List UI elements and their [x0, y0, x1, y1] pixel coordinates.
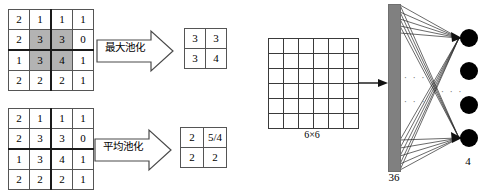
cell-r1c2: 3	[51, 30, 73, 51]
table-row	[269, 84, 359, 99]
feature-map-cell-r2c3	[314, 69, 329, 84]
feature-map-cell-r4c3	[314, 99, 329, 114]
feature-map-cell-r3c1	[284, 84, 299, 99]
input-ellipsis-2: · · ·	[404, 98, 426, 107]
feature-map-cell-r5c4	[329, 114, 344, 129]
cell-r0c2: 1	[51, 10, 73, 30]
cell-r2c3: 1	[73, 50, 94, 71]
max-pool-result-matrix: 3 3 3 4	[184, 28, 227, 69]
feature-map-cell-r1c1	[284, 54, 299, 69]
feature-map-cell-r4c4	[329, 99, 344, 114]
cell-r1c1: 3	[30, 129, 52, 150]
output-ellipsis: · · ·	[441, 88, 463, 97]
table-row: 2 1 1 1	[9, 109, 94, 129]
cell-r0c1: 1	[30, 10, 52, 30]
feature-map-cell-r1c3	[314, 54, 329, 69]
avg-pool-result-matrix: 2 5/4 2 2	[180, 127, 227, 168]
cell-r0c2: 1	[51, 109, 73, 129]
cell-r0c1: 1	[30, 109, 52, 129]
output-units-label: 4	[458, 155, 478, 167]
table-row: 1 3 4 1	[9, 149, 94, 170]
feature-map-cell-r0c4	[329, 39, 344, 54]
cell-r0c1: 5/4	[204, 128, 227, 148]
feature-map-cell-r5c3	[314, 114, 329, 129]
cell-r1c1: 2	[204, 148, 227, 168]
table-row: 2 3 3 0	[9, 30, 94, 51]
feature-map-cell-r2c4	[329, 69, 344, 84]
cell-r3c2: 2	[51, 71, 73, 91]
cell-r1c1: 4	[206, 49, 227, 69]
cell-r3c0: 2	[9, 170, 30, 190]
cell-r3c0: 2	[9, 71, 30, 91]
input-units-label: 36	[382, 171, 406, 183]
feature-map-cell-r3c4	[329, 84, 344, 99]
feature-map-cell-r0c1	[284, 39, 299, 54]
cell-r1c0: 2	[9, 129, 30, 150]
feature-map-cell-r2c0	[269, 69, 284, 84]
table-row	[269, 54, 359, 69]
cell-r3c1: 2	[30, 170, 52, 190]
cell-r0c0: 3	[185, 29, 206, 49]
feature-map-cell-r0c5	[344, 39, 359, 54]
cell-r2c0: 1	[9, 50, 30, 71]
feature-map-cell-r5c5	[344, 114, 359, 129]
cell-r1c1: 3	[30, 30, 52, 51]
avg-pool-arrow-label: 平均池化	[96, 141, 150, 153]
table-row	[269, 99, 359, 114]
max-pool-arrow: 最大池化	[96, 29, 174, 73]
cell-r0c0: 2	[9, 10, 30, 30]
cell-r1c0: 2	[181, 148, 204, 168]
cell-r3c1: 2	[30, 71, 52, 91]
output-node-2	[460, 62, 478, 80]
table-row: 1 3 4 1	[9, 50, 94, 71]
output-node-1	[460, 29, 478, 47]
feature-map-cell-r0c2	[299, 39, 314, 54]
cell-r2c3: 1	[73, 149, 94, 170]
feature-map-cell-r1c2	[299, 54, 314, 69]
cell-r3c3: 1	[73, 170, 94, 190]
cell-r1c3: 0	[73, 30, 94, 51]
feature-map-label: 6×6	[268, 129, 356, 140]
table-row: 2 2	[181, 148, 227, 168]
feature-map-cell-r3c0	[269, 84, 284, 99]
feature-map-cell-r5c0	[269, 114, 284, 129]
table-row: 2 2 2 1	[9, 71, 94, 91]
flattened-input-bar	[388, 4, 401, 172]
table-row: 2 1 1 1	[9, 10, 94, 30]
input-ellipsis-1: · · ·	[404, 74, 426, 83]
cell-r2c0: 1	[9, 149, 30, 170]
feature-map-cell-r4c1	[284, 99, 299, 114]
cell-r0c3: 1	[73, 109, 94, 129]
table-row	[269, 114, 359, 129]
feature-map-cell-r0c0	[269, 39, 284, 54]
feature-map-cell-r1c4	[329, 54, 344, 69]
cell-r0c1: 3	[206, 29, 227, 49]
cell-r2c2: 4	[51, 149, 73, 170]
avg-pool-source-matrix: 2 1 1 1 2 3 3 0 1 3 4 1 2 2 2 1	[8, 108, 94, 190]
feature-map-cell-r5c1	[284, 114, 299, 129]
cell-r0c0: 2	[9, 109, 30, 129]
feature-map-cell-r3c5	[344, 84, 359, 99]
table-row	[269, 39, 359, 54]
cell-r0c0: 2	[181, 128, 204, 148]
cell-r1c0: 3	[185, 49, 206, 69]
fully-connected-network: 36 4 · · · · · · · · ·	[388, 0, 492, 195]
feature-map-cell-r1c0	[269, 54, 284, 69]
cell-r0c3: 1	[73, 10, 94, 30]
table-row: 3 4	[185, 49, 227, 69]
cell-r1c0: 2	[9, 30, 30, 51]
feature-map-cell-r4c0	[269, 99, 284, 114]
cell-r2c2: 4	[51, 50, 73, 71]
feature-map-cell-r0c3	[314, 39, 329, 54]
table-row: 3 3	[185, 29, 227, 49]
feature-map-cell-r2c5	[344, 69, 359, 84]
cell-r2c1: 3	[30, 50, 52, 71]
cell-r3c2: 2	[51, 170, 73, 190]
feature-map-cell-r3c2	[299, 84, 314, 99]
flatten-arrow-icon	[358, 77, 388, 89]
feature-map-cell-r4c5	[344, 99, 359, 114]
feature-map-grid	[268, 38, 359, 129]
feature-map-cell-r2c2	[299, 69, 314, 84]
feature-map-cell-r2c1	[284, 69, 299, 84]
feature-map-cell-r3c3	[314, 84, 329, 99]
